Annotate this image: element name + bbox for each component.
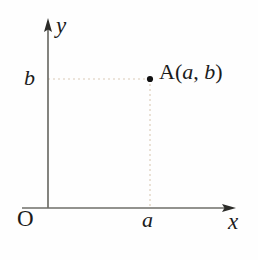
point-a-y-coord: b [204,59,215,84]
point-a-marker [147,76,153,82]
point-a-x-coord: a [182,59,193,84]
y-tick-label-b: b [24,67,35,89]
point-a-comma: , [193,59,204,84]
point-a-close-paren: ) [215,59,222,84]
x-axis-label: x [228,210,238,233]
coordinate-plane-figure: y x O b a A(a, b) [0,0,258,260]
origin-label: O [17,207,34,230]
figure-canvas [0,0,258,260]
x-tick-label-a: a [142,209,153,231]
point-a-name: A [159,59,175,84]
y-axis-label: y [56,14,66,37]
point-a-label: A(a, b) [159,61,223,83]
